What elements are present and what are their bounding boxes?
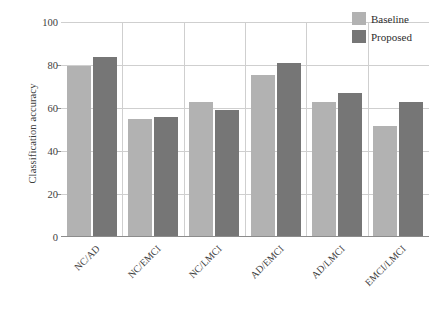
legend-label: Proposed <box>371 31 412 43</box>
x-tick-label: NC/LMCI <box>177 243 224 290</box>
x-axis-line <box>61 236 429 237</box>
bar-baseline-emci-lmci <box>373 126 397 237</box>
x-tick-label: EMCI/LMCI <box>361 243 408 290</box>
legend-item: Baseline <box>352 12 438 25</box>
bar-group <box>312 22 362 237</box>
bar-chart-figure: Classification accuracy 020406080100 NC/… <box>0 0 438 310</box>
bar-proposed-ad-emci <box>277 63 301 237</box>
legend-swatch-icon <box>352 30 366 43</box>
bar-baseline-nc-ad <box>67 66 91 237</box>
x-tick-label: NC/AD <box>54 243 101 290</box>
x-tick-label: NC/EMCI <box>115 243 162 290</box>
bar-group <box>373 22 423 237</box>
legend-item: Proposed <box>352 30 438 43</box>
gridline-vertical <box>245 22 246 237</box>
y-tick-label: 100 <box>0 17 58 28</box>
y-tick-label: 20 <box>0 189 58 200</box>
bar-baseline-nc-lmci <box>189 102 213 237</box>
bar-baseline-ad-lmci <box>312 102 336 237</box>
bar-proposed-nc-lmci <box>215 110 239 237</box>
bar-proposed-emci-lmci <box>399 102 423 237</box>
bar-group <box>251 22 301 237</box>
y-tick-label: 0 <box>0 232 58 243</box>
x-tick-label: AD/EMCI <box>238 243 285 290</box>
gridline-vertical <box>122 22 123 237</box>
bar-group <box>67 22 117 237</box>
x-tick-label: AD/LMCI <box>299 243 346 290</box>
gridline-vertical <box>184 22 185 237</box>
y-tick-label: 80 <box>0 60 58 71</box>
y-tick-label: 60 <box>0 103 58 114</box>
gridline-vertical <box>306 22 307 237</box>
legend-label: Baseline <box>371 13 409 25</box>
y-tick-label: 40 <box>0 146 58 157</box>
bar-baseline-nc-emci <box>128 119 152 237</box>
bar-proposed-ad-lmci <box>338 93 362 237</box>
gridline-vertical <box>368 22 369 237</box>
bar-group <box>189 22 239 237</box>
plot-area <box>61 22 429 237</box>
bar-baseline-ad-emci <box>251 75 275 237</box>
chart-legend: BaselineProposed <box>352 12 438 48</box>
bar-group <box>128 22 178 237</box>
bar-proposed-nc-emci <box>154 117 178 237</box>
legend-swatch-icon <box>352 12 366 25</box>
bar-proposed-nc-ad <box>93 57 117 237</box>
